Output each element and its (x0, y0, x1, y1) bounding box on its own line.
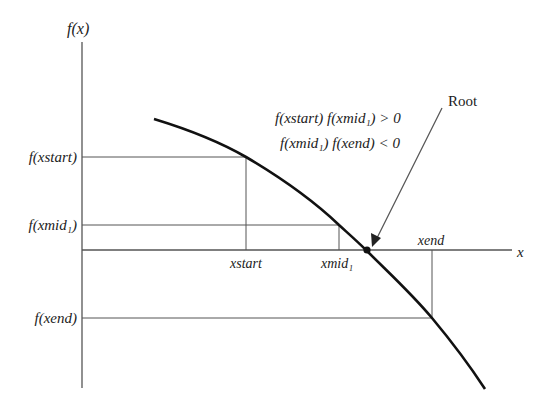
function-curve (154, 119, 485, 389)
f-xmid-label: f(xmid₁) (28, 217, 77, 234)
xmid-label: xmid₁ (320, 256, 353, 271)
bisection-diagram: f(x) x f(xstart) f(xmid₁) f(xend) xstart… (0, 0, 551, 414)
xend-label: xend (417, 233, 445, 248)
f-xend-label: f(xend) (35, 310, 77, 327)
x-axis-label: x (516, 244, 524, 260)
root-arrow-head (371, 233, 381, 247)
condition-2: f(xmid₁) f(xend) < 0 (280, 135, 400, 152)
root-label: Root (448, 93, 478, 109)
root-arrow-line (376, 108, 442, 240)
xstart-label: xstart (229, 256, 263, 271)
y-axis-label: f(x) (67, 20, 89, 38)
root-point (363, 246, 370, 253)
condition-1: f(xstart) f(xmid₁) > 0 (275, 110, 401, 127)
f-xstart-label: f(xstart) (29, 149, 77, 166)
